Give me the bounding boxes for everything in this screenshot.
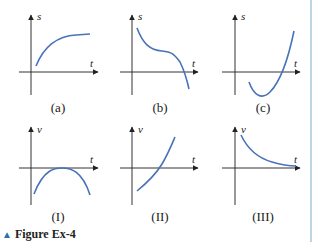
t-axis-label: t: [90, 153, 94, 165]
t-axis-label: t: [90, 57, 94, 69]
s-axis-label: s: [37, 10, 41, 22]
position-curve: [137, 28, 189, 89]
v-axis-label: v: [37, 123, 42, 135]
s-axis-label: s: [138, 10, 142, 22]
graph-II: v t: [120, 123, 198, 205]
v-axis-label: v: [241, 123, 246, 135]
label-b: (b): [152, 100, 167, 116]
figure-caption: ▲Figure Ex-4: [2, 227, 76, 242]
label-I: (I): [52, 209, 65, 225]
v-axis-label: v: [138, 123, 143, 135]
margin-rule: [310, 0, 312, 242]
triangle-marker-icon: ▲: [2, 229, 12, 240]
t-axis-label: t: [192, 57, 196, 69]
velocity-curve: [34, 168, 90, 195]
graph-b: s t: [120, 10, 198, 95]
position-curve: [36, 34, 90, 66]
graph-c: s t: [222, 10, 300, 96]
t-axis-label: t: [294, 153, 298, 165]
graph-I: v t: [19, 123, 98, 205]
t-axis-label: t: [192, 153, 196, 165]
label-II: (II): [151, 209, 168, 225]
position-curve: [249, 31, 294, 96]
t-axis-label: t: [294, 57, 298, 69]
velocity-curve: [241, 135, 296, 166]
graph-III: v t: [222, 123, 300, 205]
graph-a: s t: [19, 10, 98, 95]
label-III: (III): [252, 209, 274, 225]
velocity-curve: [137, 137, 175, 191]
caption-text: Figure Ex-4: [15, 227, 76, 241]
figure-canvas: s t s t s t v t v t v t: [0, 0, 318, 242]
s-axis-label: s: [241, 10, 245, 22]
label-c: (c): [256, 100, 270, 116]
label-a: (a): [51, 100, 65, 116]
